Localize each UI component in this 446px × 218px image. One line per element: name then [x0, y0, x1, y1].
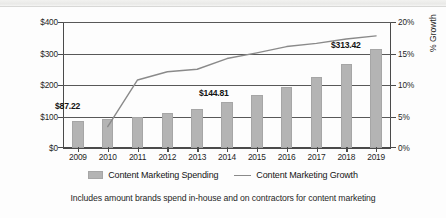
x-tick-mark-2018: [346, 147, 347, 152]
y-right-tick-mark-5: [391, 117, 396, 118]
y-axis-right-title: % Growth: [428, 14, 438, 52]
y-axis-left-tick-200: $200: [24, 81, 58, 90]
y-axis-right-tick-10: 10%: [398, 81, 428, 90]
y-axis-left-tick-300: $300: [24, 50, 58, 59]
x-axis-tick-2019: 2019: [359, 152, 393, 162]
legend-item-spending[interactable]: Content Marketing Spending: [88, 170, 218, 180]
y-axis-left-tick-0: $0: [24, 144, 58, 153]
x-tick-mark-2016: [287, 147, 288, 152]
scan-artifact-line: [0, 6, 446, 7]
x-tick-mark-2019: [376, 147, 377, 152]
legend-item-growth[interactable]: Content Marketing Growth: [234, 170, 357, 180]
legend-line-swatch-icon: [234, 175, 251, 176]
y-right-tick-mark-20: [391, 22, 396, 23]
x-axis-tick-2016: 2016: [270, 152, 304, 162]
chart-figure: US$ Billions % Growth $400 $300 $200 $10…: [0, 0, 446, 218]
x-tick-mark-2015: [257, 147, 258, 152]
x-tick-mark-2014: [227, 147, 228, 152]
data-label-2019: $313.42: [331, 40, 361, 50]
legend-label-spending: Content Marketing Spending: [108, 170, 218, 180]
y-axis-right-tick-0: 0%: [398, 144, 428, 153]
x-tick-mark-2009: [78, 147, 79, 152]
y-axis-right-tick-15: 15%: [398, 50, 428, 59]
x-tick-mark-2010: [108, 147, 109, 152]
y-axis-right-tick-20: 20%: [398, 18, 428, 27]
x-tick-mark-2013: [197, 147, 198, 152]
legend-bar-swatch-icon: [88, 171, 103, 179]
y-axis-right-tick-5: 5%: [398, 113, 428, 122]
legend-label-growth: Content Marketing Growth: [256, 170, 357, 180]
x-axis-tick-2012: 2012: [150, 152, 184, 162]
y-right-tick-mark-15: [391, 54, 396, 55]
x-tick-mark-2012: [167, 147, 168, 152]
y-right-tick-mark-0: [391, 147, 396, 148]
x-tick-mark-2017: [317, 147, 318, 152]
x-tick-mark-2011: [138, 147, 139, 152]
y-axis-left-tick-400: $400: [24, 18, 58, 27]
chart-legend: Content Marketing Spending Content Marke…: [0, 170, 446, 180]
y-axis-left-tick-100: $100: [24, 113, 58, 122]
y-right-tick-mark-10: [391, 85, 396, 86]
data-label-2014: $144.81: [199, 88, 229, 98]
data-label-2009: $87.22: [55, 101, 80, 111]
chart-caption: Includes amount brands spend in-house an…: [0, 193, 446, 203]
